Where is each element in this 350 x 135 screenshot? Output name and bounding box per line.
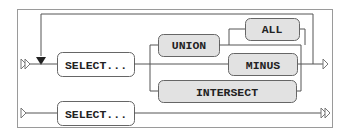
union-label: UNION (172, 39, 207, 52)
minus-terminal[interactable]: MINUS (229, 54, 298, 76)
select-label-2: SELECT... (65, 108, 127, 121)
intersect-terminal[interactable]: INTERSECT (159, 81, 297, 103)
railroad-diagram: SELECT... UNION ALL MINUS INTERSECT SELE… (0, 0, 350, 135)
select-nonterminal-2[interactable]: SELECT... (58, 102, 135, 126)
select-label-1: SELECT... (65, 59, 127, 72)
union-terminal[interactable]: UNION (159, 35, 220, 57)
all-terminal[interactable]: ALL (246, 19, 300, 41)
minus-label: MINUS (246, 59, 281, 72)
intersect-label: INTERSECT (196, 86, 258, 99)
all-label: ALL (262, 23, 283, 36)
select-nonterminal-1[interactable]: SELECT... (58, 53, 135, 77)
